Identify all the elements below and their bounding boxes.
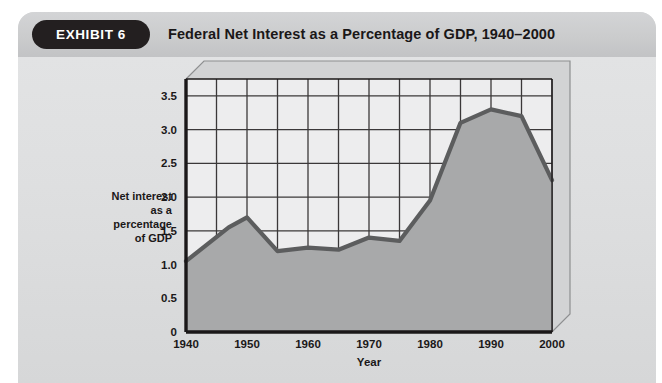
exhibit-body (18, 57, 656, 383)
exhibit-panel: EXHIBIT 6 Federal Net Interest as a Perc… (18, 12, 656, 383)
exhibit-number-badge: EXHIBIT 6 (32, 20, 150, 49)
exhibit-title: Federal Net Interest as a Percentage of … (168, 26, 555, 42)
